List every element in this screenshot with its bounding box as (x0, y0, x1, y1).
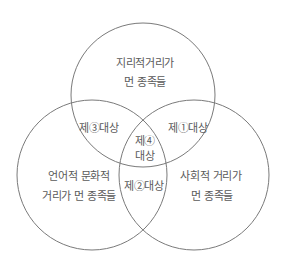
label-social-line1: 사회적 거리가 (180, 171, 241, 182)
label-target3: 제③대상 (79, 123, 119, 134)
label-social-line2: 먼 종족들 (191, 191, 233, 202)
label-target4-line1: 제④ (135, 136, 155, 147)
label-geographic-line1: 지리적거리가 (116, 58, 174, 69)
label-linguistic-line1: 언어적 문화적 (48, 171, 109, 182)
label-linguistic-line2: 거리가 먼 종족들 (42, 191, 116, 202)
venn-circles (0, 0, 287, 267)
label-geographic-line2: 먼 종족들 (124, 77, 166, 88)
label-target2: 제②대상 (124, 181, 164, 192)
venn-diagram: 지리적거리가 먼 종족들 제③대상 제①대상 제④ 대상 제②대상 언어적 문화… (0, 0, 287, 267)
label-target1: 제①대상 (168, 123, 208, 134)
label-target4-line2: 대상 (135, 151, 154, 162)
